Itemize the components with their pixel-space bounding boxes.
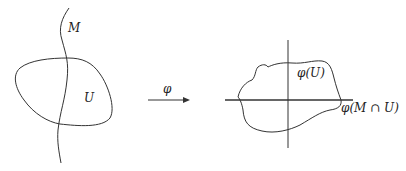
chart-diagram: M U φ φ(U) φ(M ∩ U) bbox=[0, 0, 406, 171]
open-set-label: U bbox=[84, 91, 95, 105]
map-label: φ bbox=[163, 82, 172, 96]
manifold-label: M bbox=[67, 21, 81, 35]
image-region bbox=[238, 61, 341, 132]
image-label: φ(U) bbox=[297, 66, 325, 80]
intersection-label: φ(M ∩ U) bbox=[341, 101, 399, 115]
open-set-region bbox=[15, 58, 112, 126]
arrow-head-icon bbox=[183, 97, 190, 103]
